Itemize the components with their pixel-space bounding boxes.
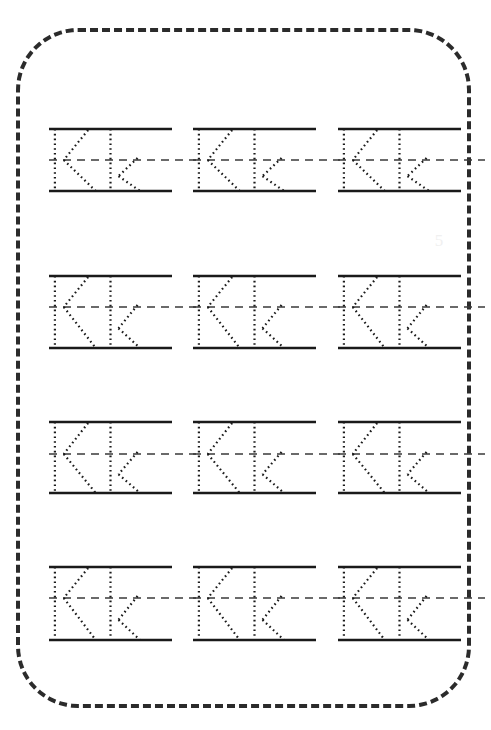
lowercase-k-upper-arm <box>262 305 281 328</box>
uppercase-k-upper-arm <box>64 568 88 598</box>
lowercase-k-upper-arm <box>262 596 281 620</box>
uppercase-k-lower-leg <box>353 160 385 191</box>
lowercase-k-upper-arm <box>407 452 426 474</box>
lowercase-k-upper-arm <box>407 305 426 328</box>
uppercase-k-lower-leg <box>353 454 385 493</box>
lowercase-k-lower-leg <box>407 620 429 640</box>
tracing-cell <box>338 129 485 191</box>
uppercase-k-upper-arm <box>353 423 377 454</box>
uppercase-k-lower-leg <box>208 160 240 191</box>
lowercase-k-upper-arm <box>262 452 281 474</box>
lowercase-k-upper-arm <box>118 596 137 620</box>
uppercase-k-upper-arm <box>208 568 232 598</box>
uppercase-k-lower-leg <box>353 598 385 640</box>
lowercase-k-lower-leg <box>407 176 429 191</box>
uppercase-k-upper-arm <box>353 568 377 598</box>
tracing-cell <box>193 567 340 640</box>
tracing-cell <box>49 567 196 640</box>
uppercase-k-upper-arm <box>353 130 377 160</box>
uppercase-k-lower-leg <box>353 307 385 348</box>
lowercase-k-lower-leg <box>118 176 140 191</box>
uppercase-k-lower-leg <box>64 454 96 493</box>
tracing-cell <box>193 276 340 348</box>
uppercase-k-upper-arm <box>64 277 88 307</box>
uppercase-k-upper-arm <box>208 130 232 160</box>
tracing-cell <box>338 276 485 348</box>
uppercase-k-upper-arm <box>208 423 232 454</box>
lowercase-k-lower-leg <box>118 474 140 493</box>
uppercase-k-lower-leg <box>64 598 96 640</box>
lowercase-k-lower-leg <box>407 328 429 348</box>
tracing-cell <box>49 276 196 348</box>
uppercase-k-lower-leg <box>64 160 96 191</box>
lowercase-k-lower-leg <box>262 328 284 348</box>
uppercase-k-upper-arm <box>208 277 232 307</box>
uppercase-k-upper-arm <box>64 423 88 454</box>
worksheet-page: 5 <box>0 0 491 730</box>
lowercase-k-upper-arm <box>118 305 137 328</box>
lowercase-k-upper-arm <box>407 596 426 620</box>
lowercase-k-lower-leg <box>262 176 284 191</box>
uppercase-k-upper-arm <box>64 130 88 160</box>
uppercase-k-lower-leg <box>208 454 240 493</box>
tracing-grid <box>0 0 491 730</box>
tracing-cell <box>193 422 340 493</box>
lowercase-k-lower-leg <box>118 328 140 348</box>
lowercase-k-upper-arm <box>118 452 137 474</box>
uppercase-k-upper-arm <box>353 277 377 307</box>
lowercase-k-lower-leg <box>262 620 284 640</box>
tracing-cell <box>338 567 485 640</box>
uppercase-k-lower-leg <box>208 598 240 640</box>
tracing-cell <box>338 422 485 493</box>
lowercase-k-lower-leg <box>118 620 140 640</box>
tracing-cell <box>49 422 196 493</box>
lowercase-k-lower-leg <box>407 474 429 493</box>
tracing-cell <box>49 129 196 191</box>
uppercase-k-lower-leg <box>208 307 240 348</box>
uppercase-k-lower-leg <box>64 307 96 348</box>
lowercase-k-lower-leg <box>262 474 284 493</box>
faint-watermark: 5 <box>430 230 448 252</box>
tracing-cell <box>193 129 340 191</box>
